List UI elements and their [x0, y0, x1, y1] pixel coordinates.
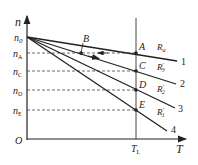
svg-text:nA: nA [13, 48, 23, 60]
svg-text:n0: n0 [14, 32, 23, 45]
operating-points [79, 51, 138, 112]
x-tick-label: TL [131, 143, 141, 155]
resistance-label-2: R′3 [156, 62, 165, 73]
svg-text:nD: nD [13, 85, 23, 97]
characteristic-lines [27, 37, 177, 131]
y-tick-labels: n0 nA nC nD nE [13, 32, 23, 117]
resistance-label-4: R′1 [156, 107, 165, 118]
resistance-label-3: R′2 [156, 84, 165, 95]
point-a-label: A [138, 41, 146, 52]
resistance-label-1: Ra [156, 42, 166, 53]
point-c-label: C [139, 60, 146, 71]
speed-torque-diagram: n T O n0 nA nC nD nE TL A B C D E Ra R′3… [0, 0, 198, 165]
line-1 [27, 37, 177, 61]
point-b-label: B [83, 33, 89, 44]
line-number-1: 1 [181, 56, 186, 67]
y-axis-label: n [15, 15, 21, 29]
x-axis-label: T [176, 142, 184, 156]
line-number-3: 3 [178, 103, 183, 114]
svg-text:nC: nC [13, 66, 22, 78]
svg-text:nE: nE [13, 105, 22, 117]
line-2 [27, 37, 176, 84]
line-number-2: 2 [180, 78, 185, 89]
line-3 [27, 37, 175, 108]
point-e-label: E [138, 99, 145, 110]
point-d-label: D [138, 79, 147, 90]
line-number-4: 4 [171, 124, 176, 135]
origin-label: O [15, 135, 22, 146]
